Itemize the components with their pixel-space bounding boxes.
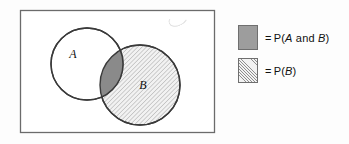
variable-b: B bbox=[318, 32, 326, 44]
hatched-swatch bbox=[238, 58, 258, 83]
venn-diagram-figure: A B =P(A and B) =P(B) bbox=[0, 0, 349, 144]
conjunction-and: and bbox=[293, 32, 318, 44]
legend-label-event-b: =P(B) bbox=[265, 65, 296, 77]
legend-label-intersection: =P(A and B) bbox=[265, 32, 329, 44]
legend-item-intersection: =P(A and B) bbox=[238, 25, 329, 50]
equals-sign: = bbox=[265, 65, 272, 77]
probability-prefix: P( bbox=[274, 65, 285, 77]
probability-suffix: ) bbox=[293, 65, 297, 77]
probability-prefix: P( bbox=[274, 32, 285, 44]
circle-b-label: B bbox=[139, 78, 147, 92]
legend-item-event-b: =P(B) bbox=[238, 58, 296, 83]
probability-suffix: ) bbox=[326, 32, 330, 44]
equals-sign: = bbox=[265, 32, 272, 44]
variable-b: B bbox=[285, 65, 293, 77]
solid-gray-swatch bbox=[238, 25, 258, 50]
variable-a: A bbox=[285, 32, 293, 44]
circle-a-label: A bbox=[68, 47, 77, 61]
venn-diagram-svg: A B bbox=[0, 0, 349, 144]
